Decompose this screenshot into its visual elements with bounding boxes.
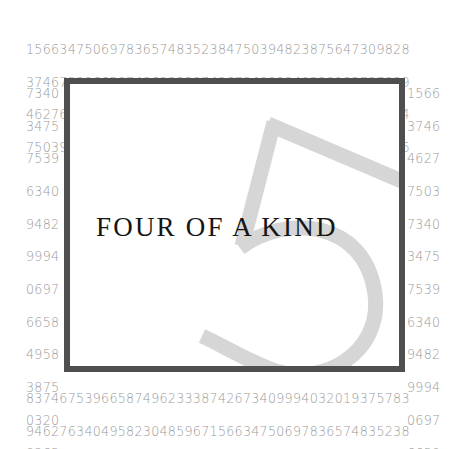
digit-cell: 6340 [26,187,59,198]
digit-cell: 7340 [26,89,59,100]
digit-cell: 7539 [407,285,440,296]
digit-cell: 6658 [26,318,59,329]
digit-line: 9462763404958230485967156634750697836574… [26,427,410,438]
digit-cell: 1566 [407,89,440,100]
digit-cell: 3475 [26,122,59,133]
digit-cell: 9994 [407,383,440,394]
digit-cell: 0697 [407,416,440,427]
digit-cell: 7503 [407,187,440,198]
digit-cell: 7539 [26,154,59,165]
digit-line: 1566347506978365748352384750394823875647… [26,45,410,56]
digit-line: 8374675396658749623338742673409994032019… [26,394,410,405]
digit-cell: 6340 [407,318,440,329]
digit-border-right: 1566 3746 4627 7503 7340 3475 7539 6340 … [407,67,440,449]
digit-cell: 4958 [26,350,59,361]
digit-border-bottom: 8374675396658749623338742673409994032019… [26,372,410,449]
digit-cell: 7340 [407,220,440,231]
digit-cell: 9482 [407,350,440,361]
digit-cell: 4627 [407,154,440,165]
digit-cell: 3475 [407,252,440,263]
digit-cell: 9994 [26,252,59,263]
digit-cell: 9482 [26,220,59,231]
cover-title: FOUR OF A KIND [96,212,338,243]
title-frame: FOUR OF A KIND [64,78,405,372]
digit-cell: 3746 [407,122,440,133]
digit-cell: 0697 [26,285,59,296]
